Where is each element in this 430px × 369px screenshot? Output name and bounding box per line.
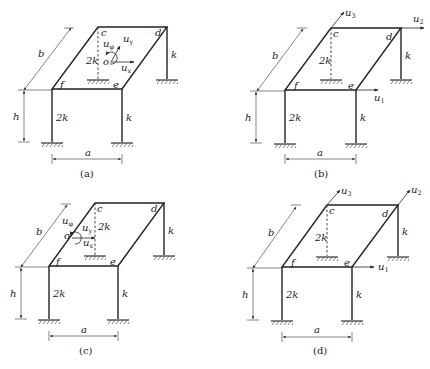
stiffness-d: k (168, 225, 174, 236)
fixed-support-d (153, 256, 175, 260)
fixed-support-f (38, 320, 60, 324)
stiffness-f: 2k (288, 112, 301, 123)
stiffness-c: 2k (97, 221, 110, 232)
label-u2: u2 (411, 184, 422, 197)
arrow-u3 (327, 190, 340, 205)
fixed-support-c (87, 80, 109, 84)
label-b: b (272, 50, 278, 61)
label-a: a (317, 147, 323, 158)
slab-outline (285, 28, 401, 90)
node-e: e (110, 256, 116, 267)
label-h: h (245, 112, 251, 123)
fixed-support-d (156, 80, 178, 84)
node-c: c (329, 205, 335, 216)
fixed-support-f (41, 143, 63, 147)
node-e: e (348, 80, 354, 91)
label-a: a (85, 147, 91, 158)
stiffness-c: 2k (318, 55, 331, 66)
node-e: e (113, 79, 119, 90)
caption-c: (c) (79, 345, 93, 356)
dim-b (24, 28, 71, 90)
arrow-u2 (398, 190, 410, 205)
label-u-phi: uφ (103, 38, 114, 51)
origin-o: o (103, 56, 109, 67)
fixed-support-e (107, 320, 129, 324)
node-d: d (151, 203, 157, 214)
label-u-y: uy (123, 33, 133, 46)
stiffness-f: 2k (52, 288, 65, 299)
panel-a: b h a c d e f 2k k k 2k o uφ uy ux (a) (13, 27, 178, 179)
label-u-x: ux (83, 237, 93, 250)
label-h: h (10, 288, 16, 299)
label-u2: u2 (413, 13, 424, 26)
stiffness-c: 2k (85, 55, 98, 66)
fixed-support-e (111, 143, 133, 147)
fixed-support-e (345, 144, 367, 148)
stiffness-e: k (360, 112, 366, 123)
fixed-support-e (341, 321, 363, 325)
fixed-support-d (390, 80, 412, 84)
dim-b (21, 205, 67, 267)
label-u-x: ux (121, 62, 131, 75)
node-d: d (155, 27, 161, 38)
panel-d: b h a c d e f 2k k k 2k u1 u2 u3 (d) (242, 184, 422, 356)
panel-b: b h a c d e f 2k k k 2k u1 u2 u3 (b) (245, 7, 424, 179)
node-c: c (97, 203, 103, 214)
stiffness-d: k (171, 49, 177, 60)
label-u-y: uy (82, 222, 92, 235)
caption-d: (d) (313, 345, 327, 356)
label-u-phi: uφ (62, 215, 73, 228)
dim-b (253, 207, 296, 268)
label-u1: u1 (378, 261, 389, 274)
label-u1: u1 (374, 92, 385, 105)
fixed-support-c (84, 256, 106, 260)
arrow-u3 (331, 12, 344, 28)
caption-a: (a) (80, 168, 94, 179)
origin-o: o (64, 230, 70, 241)
label-b: b (36, 226, 42, 237)
fixed-support-c (316, 257, 338, 261)
label-b: b (38, 48, 44, 59)
fixed-support-f (274, 144, 296, 148)
fixed-support-f (271, 321, 293, 325)
node-d: d (382, 208, 388, 219)
stiffness-c: 2k (314, 232, 327, 243)
stiffness-e: k (126, 112, 132, 123)
label-h: h (13, 111, 19, 122)
label-u3: u3 (345, 7, 356, 20)
node-d: d (386, 31, 392, 42)
figure-canvas: b h a c d e f 2k k k 2k o uφ uy ux (a) (0, 0, 430, 369)
fixed-support-c (320, 80, 342, 84)
fixed-support-d (387, 257, 409, 261)
stiffness-f: 2k (55, 112, 68, 123)
stiffness-e: k (122, 288, 128, 299)
caption-b: (b) (314, 168, 328, 179)
slab-outline (282, 205, 398, 267)
stiffness-f: 2k (285, 289, 298, 300)
node-c: c (333, 28, 339, 39)
label-h: h (242, 289, 248, 300)
node-e: e (344, 257, 350, 268)
label-b: b (268, 227, 274, 238)
node-c: c (101, 27, 107, 38)
label-u3: u3 (341, 185, 352, 198)
stiffness-d: k (402, 226, 408, 237)
panel-c: b h a c d e f 2k k k 2k o uφ uy ux (c) (10, 203, 175, 356)
stiffness-d: k (405, 50, 411, 61)
label-a: a (314, 324, 320, 335)
stiffness-e: k (356, 289, 362, 300)
label-a: a (81, 324, 87, 335)
slab-outline (52, 27, 167, 89)
